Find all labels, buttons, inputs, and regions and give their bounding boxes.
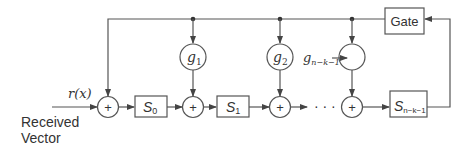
adder-3: + [342,97,363,118]
adder-2: + [270,97,291,118]
register-s1: S1 [217,96,249,117]
gate-box: Gate [385,8,424,34]
svg-text:+: + [189,100,197,115]
svg-text:Gate: Gate [390,14,418,29]
adder-0: + [98,97,119,118]
svg-text:+: + [104,100,112,115]
svg-text:+: + [276,100,284,115]
register-snk1: Sn−k−1 [390,91,427,117]
received-vector-line1: Received [21,114,79,130]
adder-1: + [183,97,204,118]
received-vector-label: Received Vector [21,114,79,146]
multiplier-g1: g1 [180,44,206,70]
svg-text:+: + [348,100,356,115]
received-vector-line2: Vector [21,130,79,146]
syndrome-calculator-diagram: · · · + + + + g1 g2 gn−k−1 S0 S1 Sn− [0,0,473,150]
multiplier-g2: g2 [267,44,293,70]
ellipsis: · · · [314,98,336,114]
multiplier-gnk1: gn−k−1 [303,44,365,70]
register-s0: S0 [135,96,167,117]
input-signal-label: r(x) [68,86,92,101]
